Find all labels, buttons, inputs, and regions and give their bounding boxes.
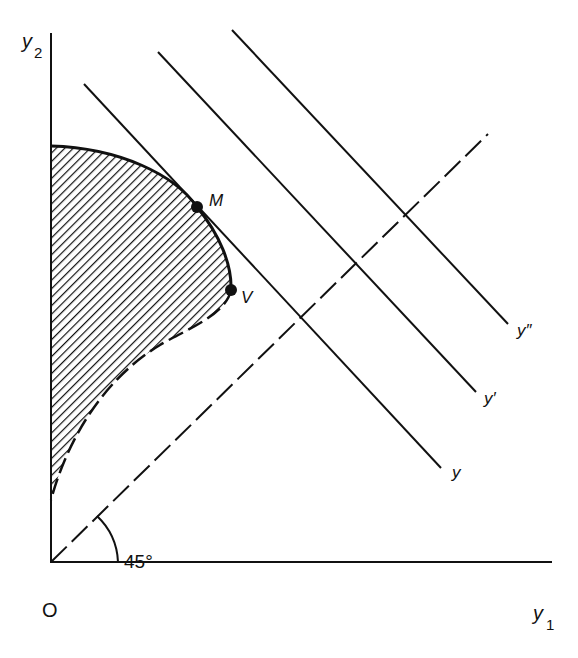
y1-axis-label: y	[531, 602, 544, 624]
angle-label: 45°	[124, 551, 153, 572]
iso-label-y: y	[451, 463, 462, 482]
diagram-canvas: M V y y′ y″ y 2 y 1 O 45°	[0, 0, 578, 658]
angle-arc	[97, 516, 118, 562]
iso-label-y-double-prime: y″	[516, 321, 533, 340]
y1-axis-subscript: 1	[546, 616, 554, 633]
iso-label-y-prime: y′	[483, 389, 497, 408]
shaded-region	[51, 146, 231, 500]
point-v	[225, 284, 237, 296]
y2-axis-label: y	[20, 30, 33, 52]
point-v-label: V	[241, 288, 254, 307]
point-m	[191, 201, 203, 213]
origin-label: O	[42, 599, 58, 621]
point-m-label: M	[209, 191, 224, 210]
y2-axis-subscript: 2	[34, 44, 42, 61]
